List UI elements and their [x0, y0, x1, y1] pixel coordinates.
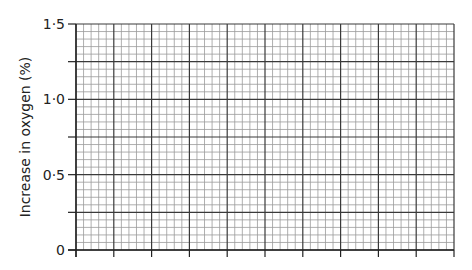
y-tick-label: 0 [56, 242, 65, 258]
axes [68, 24, 454, 257]
y-tick-label: 1·0 [43, 91, 65, 107]
graph-paper-chart: 00·51·01·5 [0, 0, 472, 270]
grid [76, 24, 454, 250]
y-tick-label: 0·5 [43, 167, 65, 183]
y-tick-label: 1·5 [43, 16, 65, 32]
x-axis-ticks [76, 250, 454, 257]
y-axis-ticks: 00·51·01·5 [43, 16, 76, 258]
y-axis-label: Increase in oxygen (%) [17, 57, 33, 218]
